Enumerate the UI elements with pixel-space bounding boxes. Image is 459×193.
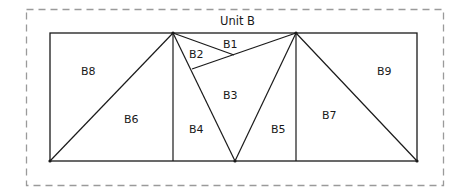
region-label-b9: B9 [377, 65, 392, 78]
divider-b8-b6 [50, 33, 173, 161]
region-label-b4: B4 [189, 123, 204, 136]
region-label-b3: B3 [223, 89, 238, 102]
vertex [415, 159, 418, 162]
region-label-b6: B6 [124, 113, 139, 126]
region-label-b7: B7 [322, 109, 337, 122]
unit-b-diagram: Unit B B1 B2 B3 B4 B5 B6 B7 B8 B9 [0, 0, 459, 193]
vertex [294, 31, 297, 34]
vertex [171, 31, 174, 34]
region-label-b8: B8 [81, 65, 96, 78]
divider-b2b1-b3 [192, 33, 296, 69]
divider-b7-b9 [296, 33, 417, 161]
region-label-b1: B1 [223, 38, 238, 51]
divider-b3-b5 [235, 33, 296, 161]
vertex [233, 159, 236, 162]
vertex [48, 159, 51, 162]
region-label-b5: B5 [271, 123, 286, 136]
region-label-b2: B2 [189, 48, 204, 61]
diagram-title: Unit B [220, 14, 255, 28]
